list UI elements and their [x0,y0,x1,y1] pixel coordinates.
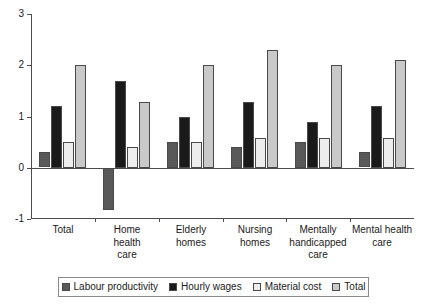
y-axis-tick [27,219,31,220]
legend-swatch-icon [169,283,177,291]
legend-swatch-icon [62,283,70,291]
x-axis-category-label: Total [31,224,95,237]
x-axis-tick [95,218,96,222]
legend-item[interactable]: Material cost [253,282,322,292]
category-label-line: Nursing [223,224,287,237]
bar-total-total [75,65,86,168]
category-label-line: care [286,249,350,262]
bar-home-health-care-total [139,102,150,168]
category-label-line: Home [95,224,159,237]
bar-elderly-homes-hourly-wages [179,117,190,168]
category-label-line: health [95,237,159,250]
bar-nursing-homes-total [267,50,278,168]
bar-mentally-handicapped-care-labour-productivity [295,142,306,168]
bar-mental-health-care-labour-productivity [359,152,370,167]
plot-area: -10123 [31,14,414,219]
legend-item[interactable]: Labour productivity [62,282,159,292]
bar-total-hourly-wages [51,106,62,168]
bar-elderly-homes-total [203,65,214,168]
bar-home-health-care-hourly-wages [115,81,126,168]
legend-swatch-icon [332,283,340,291]
y-axis-tick-label: 3 [18,9,24,19]
y-axis-tick [27,14,31,15]
bar-nursing-homes-labour-productivity [231,147,242,168]
bar-elderly-homes-material-cost [191,142,202,168]
category-label-line: care [95,249,159,262]
legend-label: Material cost [265,282,322,292]
y-axis-tick [27,168,31,169]
legend-swatch-icon [253,283,261,291]
y-axis-line [31,14,32,219]
y-axis-tick-label: 2 [18,60,24,70]
x-axis-category-label: Mental healthcare [350,224,414,249]
y-axis-tick [27,117,31,118]
category-label-line: homes [159,237,223,250]
x-axis-category-label: Homehealthcare [95,224,159,262]
y-axis-tick-label: 1 [18,112,24,122]
x-axis-tick [286,218,287,222]
category-label-line: homes [223,237,287,250]
x-axis-category-label: Mentallyhandicappedcare [286,224,350,262]
legend-item[interactable]: Total [332,282,365,292]
bar-home-health-care-labour-productivity [103,168,114,210]
legend-item[interactable]: Hourly wages [169,282,242,292]
category-label-line: Total [31,224,95,237]
chart-legend: Labour productivityHourly wagesMaterial … [58,277,369,297]
bar-mental-health-care-material-cost [383,138,394,168]
legend-label: Total [344,282,365,292]
category-label-line: care [350,237,414,250]
bar-total-material-cost [63,142,74,168]
category-label-line: Mental health [350,224,414,237]
legend-label: Labour productivity [74,282,159,292]
bar-mental-health-care-hourly-wages [371,106,382,168]
bar-chart: -10123 TotalHomehealthcareElderlyhomesNu… [0,0,424,306]
bar-mentally-handicapped-care-total [331,65,342,168]
x-axis-category-label: Elderlyhomes [159,224,223,249]
y-axis-tick [27,65,31,66]
category-label-line: Mentally [286,224,350,237]
bar-elderly-homes-labour-productivity [167,142,178,168]
x-axis-tick [159,218,160,222]
legend-label: Hourly wages [181,282,242,292]
bar-home-health-care-material-cost [127,147,138,168]
x-axis-tick [223,218,224,222]
x-axis-category-label: Nursinghomes [223,224,287,249]
category-labels: TotalHomehealthcareElderlyhomesNursingho… [31,224,414,272]
category-label-line: handicapped [286,237,350,250]
y-axis-tick-label: -1 [15,214,24,224]
y-axis-tick-label: 0 [18,163,24,173]
category-label-line: Elderly [159,224,223,237]
bar-mental-health-care-total [395,60,406,168]
bar-mentally-handicapped-care-hourly-wages [307,122,318,168]
bar-total-labour-productivity [39,152,50,167]
zero-baseline [31,168,414,169]
x-axis-tick [350,218,351,222]
bar-mentally-handicapped-care-material-cost [319,138,330,168]
bar-nursing-homes-hourly-wages [243,102,254,168]
bar-nursing-homes-material-cost [255,138,266,168]
